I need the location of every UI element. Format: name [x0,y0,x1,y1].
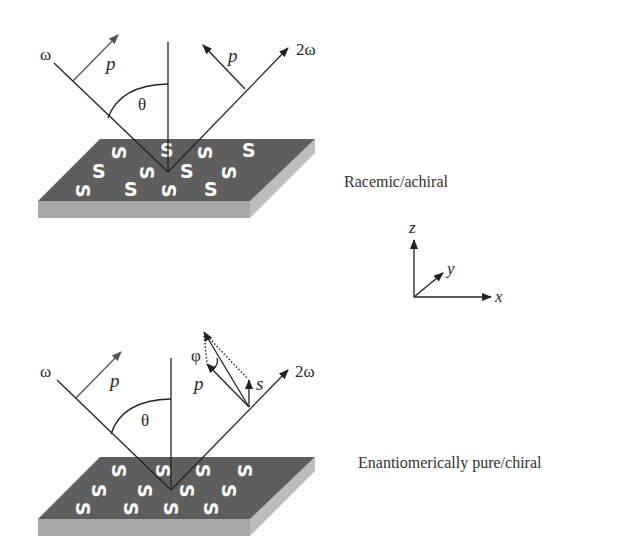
molecule-icon: S [160,502,182,516]
bottom-panel-chiral: S S S S S S S S S S S S ω p θ φ p s 2ω [38,332,315,536]
output-resultant-arrow [204,332,249,407]
caption-racemic: Racemic/achiral [344,173,448,190]
incident-polarization-label: p [104,53,116,74]
angle-label: θ [141,411,149,430]
molecule-icon: S [218,484,240,498]
projection-dotted-line [207,336,247,378]
molecule-icon: S [234,464,256,478]
molecule-icon: S [72,184,94,198]
incident-polarization-label: p [108,370,120,391]
molecule-icon: S [158,184,180,198]
molecule-icon: S [72,502,94,516]
molecule-icon: S [194,146,216,160]
output-frequency-label: 2ω [295,362,315,381]
molecule-icon: S [180,160,194,182]
x-axis-label: x [494,287,503,306]
molecule-icon: S [120,502,142,516]
surface-slab [38,139,315,218]
output-p-component-arrow [207,364,249,407]
molecule-icon: S [88,484,110,498]
incident-frequency-label: ω [40,45,51,64]
output-p-polarization-arrow [203,45,245,89]
molecule-icon: S [124,178,138,200]
molecule-icon: S [134,484,156,498]
molecule-icon: S [192,464,214,478]
top-panel-racemic: S S S S S S S S S S S S ω p θ p 2ω [38,35,316,218]
molecule-icon: S [242,139,256,161]
z-axis-label: z [408,218,416,237]
output-frequency-label: 2ω [296,40,316,59]
phi-angle-arc [213,358,218,369]
molecule-icon: S [136,166,158,180]
molecule-icon: S [92,160,106,182]
y-axis-arrow [414,273,443,297]
output-polarization-label: p [226,45,238,66]
molecule-icon: S [108,146,130,160]
molecule-icon: S [108,464,130,478]
incident-frequency-label: ω [40,362,51,381]
molecule-icon: S [218,166,240,180]
output-p-label: p [192,373,204,394]
y-axis-label: y [445,259,455,278]
angle-label: θ [138,95,146,114]
molecule-icon: S [176,484,198,498]
shg-chirality-diagram: S S S S S S S S S S S S ω p θ p 2ω Racem… [0,0,644,560]
rotation-angle-label: φ [191,346,201,365]
coordinate-axes: z y x [408,218,503,306]
caption-chiral: Enantiomerically pure/chiral [358,454,542,472]
molecule-icon: S [200,502,222,516]
molecule-icon: S [204,178,218,200]
output-s-label: s [256,373,263,394]
projection-dotted-line [204,336,207,362]
molecule-icon: S [160,139,174,161]
